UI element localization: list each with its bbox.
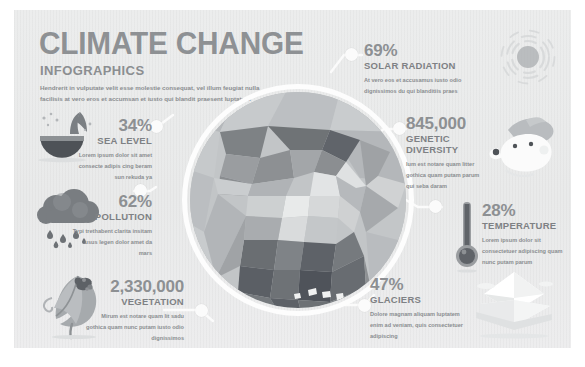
stat-description: Typi trethabent clarita insitam usus leg… — [72, 226, 152, 259]
stat-value: 47% — [370, 276, 470, 294]
stat-value: 62% — [72, 193, 152, 211]
stat-temperature: 28% TEMPERATURE Lorem ipsum dolor sit co… — [482, 202, 571, 267]
stat-description: Dolore magnam aliquam luptatem enim ad v… — [370, 309, 470, 342]
stat-solar-radiation: 69% SOLAR RADIATION At vero eos et accus… — [364, 42, 484, 97]
stat-description: Mirum est notare quam lit sadu gothica q… — [84, 311, 184, 344]
stat-label: TEMPERATURE — [482, 221, 571, 232]
stat-value: 2,330,000 — [84, 278, 184, 296]
infographic-canvas: CLIMATE CHANGE INFOGRAPHICS Hendrerit in… — [14, 10, 571, 348]
stat-label: SOLAR RADIATION — [364, 61, 484, 72]
page-subtitle: INFOGRAPHICS — [40, 63, 144, 78]
stat-label: GENETIC DIVERSITY — [406, 134, 482, 156]
infographic-page: CLIMATE CHANGE INFOGRAPHICS Hendrerit in… — [0, 0, 585, 367]
iceberg-icon — [466, 268, 562, 342]
node-temperature — [429, 200, 442, 213]
stat-value: 28% — [482, 202, 571, 220]
node-genetic-diversity — [393, 122, 406, 135]
stat-label: SEA LEVEL — [74, 136, 152, 147]
stat-label: VEGETATION — [84, 297, 184, 308]
stat-genetic-diversity: 845,000 GENETIC DIVERSITY Ium est notare… — [406, 115, 482, 191]
stat-sea-level: 34% SEA LEVEL Lorem ipsum dolor sit amet… — [74, 117, 152, 182]
stat-label: GLACIERS — [370, 295, 470, 306]
thermometer-icon — [454, 200, 480, 274]
node-vegetation — [195, 304, 208, 317]
stat-description: At vero eos et accusamus iusto odio dign… — [364, 75, 484, 97]
stat-description: Lorem ipsum dolor sit amet consecte adip… — [74, 150, 152, 183]
stat-value: 845,000 — [406, 115, 482, 133]
stat-vegetation: 2,330,000 VEGETATION Mirum est notare qu… — [84, 278, 184, 343]
sun-icon — [497, 26, 559, 88]
polar-bear-icon — [482, 114, 558, 184]
stat-description: Ium est notare quam litter gothica quam … — [406, 159, 482, 192]
stat-label: POLLUTION — [72, 212, 152, 223]
page-title: CLIMATE CHANGE — [39, 28, 304, 59]
stat-description: Lorem ipsum dolor sit consectetuer adipi… — [482, 235, 571, 268]
stat-glaciers: 47% GLACIERS Dolore magnam aliquam lupta… — [370, 276, 470, 341]
node-solar-radiation — [345, 48, 358, 61]
stat-value: 69% — [364, 42, 484, 60]
stat-pollution: 62% POLLUTION Typi trethabent clarita in… — [72, 193, 152, 258]
stat-value: 34% — [74, 117, 152, 135]
